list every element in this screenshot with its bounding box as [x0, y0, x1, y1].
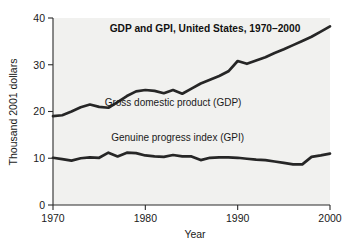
y-tick-label: 40 [33, 12, 45, 24]
y-tick-label: 30 [33, 59, 45, 71]
x-axis-title: Year [184, 228, 206, 240]
chart-title: GDP and GPI, United States, 1970–2000 [110, 23, 301, 34]
x-axis-ticks: 1970198019902000 [41, 205, 342, 224]
y-tick-label: 20 [33, 105, 45, 117]
y-tick-label: 0 [39, 199, 45, 211]
y-axis-ticks: 010203040 [33, 12, 53, 211]
series-label-gdp: Gross domestic product (GDP) [105, 97, 242, 108]
x-tick-label: 2000 [318, 212, 342, 224]
x-tick-label: 1970 [41, 212, 65, 224]
figure-container: 010203040 1970198019902000 Gross domesti… [0, 0, 351, 250]
gdp-gpi-line-chart: 010203040 1970198019902000 Gross domesti… [0, 0, 351, 250]
x-tick-label: 1980 [134, 212, 158, 224]
y-axis-title: Thousand 2001 dollars [7, 59, 19, 166]
y-tick-label: 10 [33, 152, 45, 164]
x-tick-label: 1990 [226, 212, 250, 224]
series-label-gpi: Genuine progress index (GPI) [111, 132, 244, 143]
